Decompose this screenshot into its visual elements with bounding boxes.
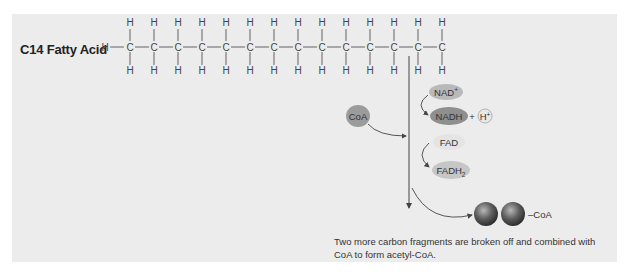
carbon-atom: C	[438, 42, 445, 53]
carbon-atom: C	[246, 42, 253, 53]
hydrogen-atom: H	[246, 17, 253, 28]
coa-arrow	[368, 124, 406, 136]
hydrogen-atom: H	[198, 17, 205, 28]
hydrogen-atom: H	[414, 65, 421, 76]
hydrogen-atom: H	[198, 65, 205, 76]
hydrogen-atom-terminal: H	[101, 42, 108, 53]
hydrogen-atom: H	[318, 17, 325, 28]
carbon-atom: C	[414, 42, 421, 53]
hydrogen-atom: H	[222, 17, 229, 28]
acetyl-arrow	[412, 188, 472, 217]
carbon-atom: C	[150, 42, 157, 53]
carbon-atom: C	[222, 42, 229, 53]
hydrogen-atom: H	[270, 17, 277, 28]
fad-label: FAD	[440, 137, 459, 148]
hydrogen-atom: H	[366, 65, 373, 76]
hydrogen-atom: H	[150, 17, 157, 28]
hydrogen-atom: H	[366, 17, 373, 28]
plus-sign: +	[469, 111, 475, 122]
hydrogen-atom: H	[438, 17, 445, 28]
carbon-sphere-2	[501, 202, 525, 226]
hydrogen-atom: H	[126, 17, 133, 28]
hydrogen-atom: H	[126, 65, 133, 76]
nad-arrow	[421, 95, 428, 115]
hydrogen-atom: H	[222, 65, 229, 76]
hydrogen-atom: H	[390, 17, 397, 28]
hydrogen-atom: H	[270, 65, 277, 76]
carbon-atom: C	[342, 42, 349, 53]
carbon-atom: C	[126, 42, 133, 53]
carbon-atom: C	[270, 42, 277, 53]
hydrogen-atom: H	[294, 17, 301, 28]
hydrogen-atom: H	[318, 65, 325, 76]
carbon-atom: C	[366, 42, 373, 53]
fad-arrow	[422, 143, 429, 167]
hydrogen-atom: H	[150, 65, 157, 76]
carbon-atom: C	[390, 42, 397, 53]
hydrogen-atom: H	[246, 65, 253, 76]
hydrogen-atom: H	[438, 65, 445, 76]
hydrogen-atom: H	[414, 17, 421, 28]
carbon-chain: HCHHCHHCHHCHHCHHCHHCHHCHHCHHCHHCHHCHHCHH…	[101, 17, 445, 76]
carbon-atom: C	[318, 42, 325, 53]
caption: Two more carbon fragments are broken off…	[334, 235, 614, 261]
acetyl-coa-label: –CoA	[528, 209, 552, 220]
carbon-atom: C	[198, 42, 205, 53]
hydrogen-atom: H	[342, 65, 349, 76]
hydrogen-atom: H	[174, 65, 181, 76]
nadh-label: NADH	[436, 111, 463, 122]
carbon-atom: C	[174, 42, 181, 53]
carbon-sphere-1	[474, 202, 498, 226]
coa-label: CoA	[349, 111, 368, 122]
carbon-atom: C	[294, 42, 301, 53]
hydrogen-atom: H	[174, 17, 181, 28]
hydrogen-atom: H	[390, 65, 397, 76]
hydrogen-atom: H	[294, 65, 301, 76]
hydrogen-atom: H	[342, 17, 349, 28]
